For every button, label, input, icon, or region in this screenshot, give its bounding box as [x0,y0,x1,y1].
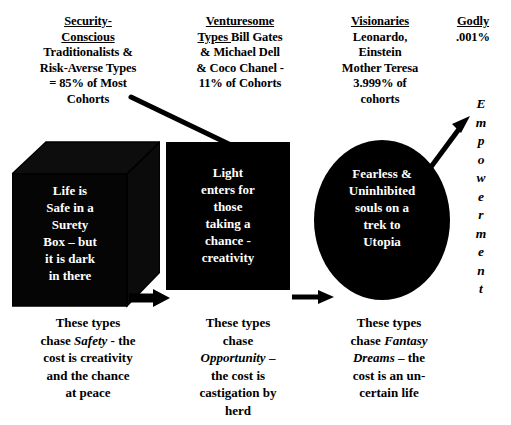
shape-light-box: Light enters for those taking a chance -… [166,142,290,290]
heading-security-conscious-underlined: Security- Conscious [61,14,114,44]
shape-utopia-oval: Fearless & Uninhibited souls on a trek t… [314,140,450,300]
surety-box-text: Life is Safe in a Surety Box – but it is… [12,182,128,284]
empowerment-letter: n [466,262,496,281]
heading-security-conscious: Security- Conscious Traditionalists & Ri… [8,14,168,107]
arrow-rect-to-oval [292,290,334,304]
diagram-canvas: Security- Conscious Traditionalists & Ri… [0,0,511,425]
caption-opportunity: These types chase Opportunity – the cost… [172,314,304,419]
empowerment-letter: w [466,169,496,188]
empowerment-letter: o [466,151,496,170]
empowerment-letter: E [466,95,496,114]
caption-opportunity-emphasis: Opportunity [201,350,266,365]
empowerment-letter: r [466,206,496,225]
utopia-oval-text: Fearless & Uninhibited souls on a trek t… [314,165,450,250]
caption-safety: These types chase Safety - the cost is c… [8,314,168,402]
shape-surety-box: Life is Safe in a Surety Box – but it is… [12,140,160,308]
heading-visionaries: Visionaries Leonardo, Einstein Mother Te… [316,14,444,107]
caption-safety-emphasis: Safety [74,333,107,348]
empowerment-label: E m p o w e r m e n t [466,95,496,299]
empowerment-letter: e [466,188,496,207]
caption-fantasy: These types chase Fantasy Dreams – the c… [318,314,460,402]
heading-visionaries-underlined: Visionaries [351,14,409,28]
empowerment-letter: e [466,243,496,262]
heading-godly-body: .001% [456,30,490,44]
heading-godly-underlined: Godly [457,14,489,28]
empowerment-letter: m [466,225,496,244]
empowerment-letter: p [466,132,496,151]
heading-venturesome: Venturesome Types Bill Gates & Michael D… [175,14,305,92]
empowerment-letter: m [466,114,496,133]
empowerment-letter: t [466,280,496,299]
caption-opportunity-pre: These types chase [206,315,271,348]
heading-visionaries-body: Leonardo, Einstein Mother Teresa 3.999% … [342,30,418,106]
heading-godly: Godly .001% [441,14,505,45]
heading-security-conscious-body: Traditionalists & Risk-Averse Types = 85… [40,45,137,106]
light-box-text: Light enters for those taking a chance -… [166,164,290,266]
